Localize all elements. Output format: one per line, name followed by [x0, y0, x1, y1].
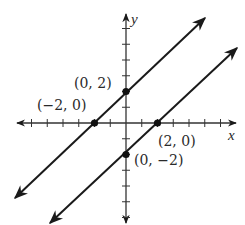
coordinate-graph: (0, 2) (−2, 0) (2, 0) (0, −2) x y: [0, 0, 245, 225]
y-axis-label: y: [129, 11, 138, 27]
label-point-2-0: (2, 0): [158, 133, 196, 149]
label-point-0-2: (0, 2): [74, 75, 112, 91]
point-2-0: [154, 119, 161, 126]
point-0-neg2: [122, 151, 129, 158]
label-point-neg2-0: (−2, 0): [37, 97, 86, 113]
point-neg2-0: [91, 119, 98, 126]
point-0-2: [122, 88, 129, 95]
label-point-0-neg2: (0, −2): [134, 152, 183, 168]
x-axis-label: x: [227, 127, 235, 143]
